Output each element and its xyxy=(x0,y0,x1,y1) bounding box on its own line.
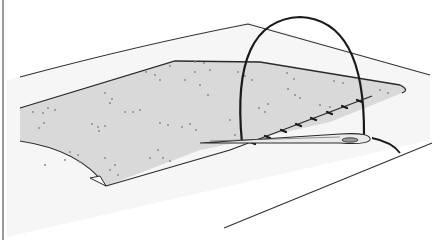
needle-eye xyxy=(342,138,358,142)
diagram-canvas xyxy=(0,0,448,240)
sewing-illustration xyxy=(0,0,448,240)
